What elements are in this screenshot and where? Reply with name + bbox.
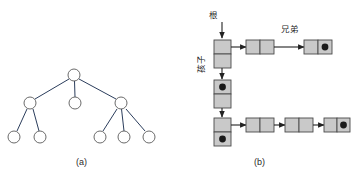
tree-edge-root-c3 xyxy=(79,79,116,99)
tree-node-root[interactable] xyxy=(68,69,80,81)
node-r1-s2[interactable] xyxy=(304,40,332,54)
node-mid-null-dot-icon xyxy=(219,84,226,91)
tree-node-g1[interactable] xyxy=(8,131,20,143)
tree-node-g5[interactable] xyxy=(143,131,155,143)
node-root-data-cell xyxy=(214,40,231,54)
tree-edge-c3-g4 xyxy=(122,109,125,131)
tree-edge-c1-g2 xyxy=(33,109,39,131)
node-mid[interactable] xyxy=(214,80,231,108)
tree-edge-root-c2 xyxy=(75,81,76,97)
node-r3-s3[interactable] xyxy=(324,118,350,132)
label-child: 孩子 xyxy=(197,55,206,73)
node-r3-s2-next-cell xyxy=(299,118,313,132)
tree-edge-c3-g3 xyxy=(103,109,117,131)
tree-node-g4[interactable] xyxy=(118,131,130,143)
node-r3-s2-data-cell xyxy=(285,118,299,132)
tree-node-c3[interactable] xyxy=(115,97,127,109)
tree-node-c1[interactable] xyxy=(24,97,36,109)
node-r3-s1-data-cell xyxy=(246,118,260,132)
node-r3-s1[interactable] xyxy=(246,118,274,132)
node-bot[interactable] xyxy=(214,118,231,146)
node-bot-data-cell xyxy=(214,118,231,132)
label-sibling: 兄弟 xyxy=(281,25,299,34)
label-root: 根 xyxy=(209,11,218,20)
child-sibling-graphic xyxy=(176,0,351,176)
caption-b: (b) xyxy=(254,158,265,167)
node-root-child-cell xyxy=(214,54,231,68)
node-r1-s1-data-cell xyxy=(246,40,260,54)
tree-edge-c1-g1 xyxy=(17,109,27,131)
panel-child-sibling-list: 根 兄弟 孩子 (b) xyxy=(176,0,351,176)
node-bot-null-dot-icon xyxy=(219,136,226,143)
panel-general-tree: (a) xyxy=(0,0,176,176)
node-mid-child-cell xyxy=(214,94,231,108)
tree-edge-root-c1 xyxy=(35,79,69,99)
general-tree-graphic xyxy=(0,0,176,176)
caption-a: (a) xyxy=(76,158,87,167)
tree-node-g2[interactable] xyxy=(34,131,46,143)
node-r3-s3-null-dot-icon xyxy=(340,122,347,129)
node-r3-s1-next-cell xyxy=(260,118,274,132)
figure-canvas: (a) xyxy=(0,0,351,176)
node-r1-s1[interactable] xyxy=(246,40,274,54)
node-r1-s2-data-cell xyxy=(304,40,318,54)
tree-node-g3[interactable] xyxy=(94,131,106,143)
node-r3-s2[interactable] xyxy=(285,118,313,132)
node-r3-s3-data-cell xyxy=(324,118,337,132)
tree-node-c2[interactable] xyxy=(69,97,81,109)
node-r1-s2-null-dot-icon xyxy=(322,44,329,51)
node-root[interactable] xyxy=(214,40,231,68)
node-r1-s1-next-cell xyxy=(260,40,274,54)
tree-edge-c3-g5 xyxy=(126,109,145,131)
